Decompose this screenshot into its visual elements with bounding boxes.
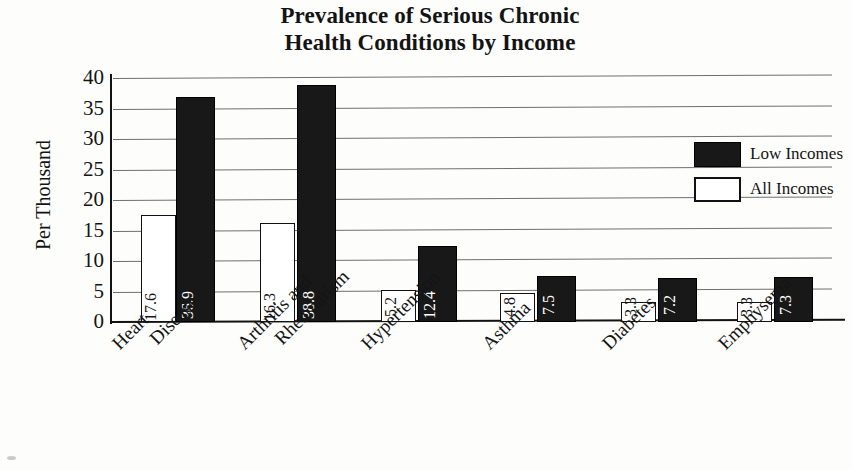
legend-label: All Incomes <box>750 179 834 199</box>
chart-figure: Prevalence of Serious Chronic Health Con… <box>0 0 852 470</box>
legend-label: Low Incomes <box>750 144 843 164</box>
x-category-label: HeartDisease <box>107 275 203 371</box>
legend-swatch-low-incomes <box>694 142 741 167</box>
scan-artifact-speck <box>7 456 16 460</box>
x-category-label: Emphysema <box>713 272 796 355</box>
x-category-label-line: Disease <box>144 291 202 349</box>
x-category-label-line: Asthma <box>478 297 535 354</box>
x-category-label: Arthritis andRheumatism <box>232 249 354 371</box>
x-category-label-line: Hypertension <box>357 266 444 353</box>
x-axis-category-labels: HeartDiseaseArthritis andRheumatismHyper… <box>0 0 852 470</box>
x-category-label-line: Emphysema <box>714 272 795 353</box>
legend-swatch-all-incomes <box>694 177 741 202</box>
x-category-label: Hypertension <box>356 266 445 355</box>
x-category-label: Diabetes <box>597 291 660 354</box>
x-category-label: Asthma <box>477 296 535 354</box>
legend-item: Low Incomes <box>694 140 844 175</box>
chart-legend: Low IncomesAll Incomes <box>694 140 844 210</box>
x-category-label-line: Diabetes <box>598 292 660 354</box>
legend-item: All Incomes <box>694 175 844 210</box>
